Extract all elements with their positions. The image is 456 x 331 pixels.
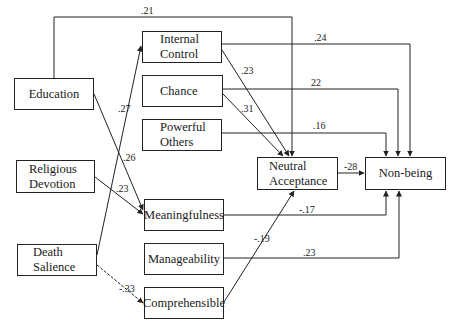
path-comprehensible-neutral — [224, 191, 294, 302]
node-death-salience: Death Salience — [17, 244, 97, 276]
node-non-being: Non-being — [365, 157, 446, 190]
path-powerful-nonbeing — [222, 133, 386, 156]
coef-comprehensible-neutral: -.19 — [254, 234, 270, 244]
coef-internal-neutral: .23 — [241, 66, 254, 76]
node-comprehensible: Comprehensible — [144, 287, 224, 319]
node-non-being-label: Non-being — [379, 166, 432, 181]
node-neutral-acceptance: Neutral Acceptance — [257, 157, 338, 190]
coef-education-neutral: .21 — [141, 6, 154, 16]
node-internal-control: Internal Control — [142, 31, 222, 63]
coef-chance-neutral: .31 — [241, 104, 254, 114]
coef-chance-nonbeing: 22 — [311, 78, 321, 88]
path-chance-nonbeing — [223, 89, 398, 156]
node-chance-label: Chance — [160, 84, 197, 99]
node-manageability: Manageability — [144, 243, 224, 275]
coef-education-meaning: .26 — [123, 153, 136, 163]
coef-neutral-nonbeing: -28 — [344, 162, 357, 172]
path-internal-nonbeing — [222, 44, 410, 156]
coef-internal-nonbeing: .24 — [314, 33, 327, 43]
node-meaningfulness-label: Meaningfulness — [144, 208, 224, 223]
node-religious-devotion: Religious Devotion — [16, 160, 95, 193]
node-powerful-others-label: Powerful Others — [160, 120, 206, 150]
coef-manage-nonbeing: .23 — [303, 248, 316, 258]
coef-meaning-nonbeing: -.17 — [299, 205, 315, 215]
node-powerful-others: Powerful Others — [142, 119, 222, 151]
node-education: Education — [14, 78, 94, 110]
node-death-salience-label: Death Salience — [33, 245, 75, 275]
node-religious-devotion-label: Religious Devotion — [29, 162, 77, 192]
node-neutral-acceptance-label: Neutral Acceptance — [269, 159, 327, 189]
path-death-internal — [97, 46, 141, 255]
coef-death-internal: .27 — [118, 104, 131, 114]
coef-death-comprehensible: -.33 — [119, 284, 135, 294]
node-manageability-label: Manageability — [148, 252, 220, 267]
node-meaningfulness: Meaningfulness — [144, 199, 224, 231]
coef-powerful-nonbeing: .16 — [313, 121, 326, 131]
coef-religious-meaning: .23 — [116, 184, 129, 194]
node-chance: Chance — [142, 75, 223, 107]
node-education-label: Education — [29, 87, 80, 102]
node-internal-control-label: Internal Control — [160, 32, 199, 62]
node-comprehensible-label: Comprehensible — [143, 296, 225, 311]
